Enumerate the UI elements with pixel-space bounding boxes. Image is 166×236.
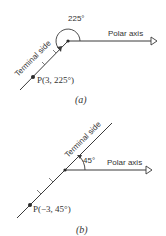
unit-tick (49, 178, 53, 182)
polar-coordinates-diagram: Polar axis Terminal side 225° P(3, 225°)… (0, 0, 166, 236)
polar-axis-label: Polar axis (108, 29, 143, 38)
pole-point (66, 39, 69, 42)
figure-caption: (b) (76, 224, 88, 236)
point-label: P(−3, 45°) (33, 204, 71, 214)
angle-label: 45° (83, 156, 95, 165)
terminal-side-label: Terminal side (63, 119, 103, 159)
point-label: P(3, 225°) (37, 75, 74, 85)
polar-axis-label: Polar axis (107, 158, 142, 167)
polar-axis-arrowhead-icon (151, 37, 157, 45)
figure-b: Polar axis Terminal side 45° P(−3, 45°) … (17, 119, 152, 236)
figure-caption: (a) (75, 94, 87, 106)
polar-axis-arrowhead-icon (146, 166, 152, 174)
terminal-side-label: Terminal side (13, 38, 53, 78)
figure-a: Polar axis Terminal side 225° P(3, 225°)… (13, 14, 157, 106)
unit-tick (42, 62, 45, 65)
angle-label: 225° (68, 14, 85, 23)
unit-tick (53, 50, 56, 53)
point-p (31, 75, 35, 79)
unit-tick (37, 190, 41, 194)
pole-point (63, 168, 66, 171)
point-p (28, 203, 32, 207)
